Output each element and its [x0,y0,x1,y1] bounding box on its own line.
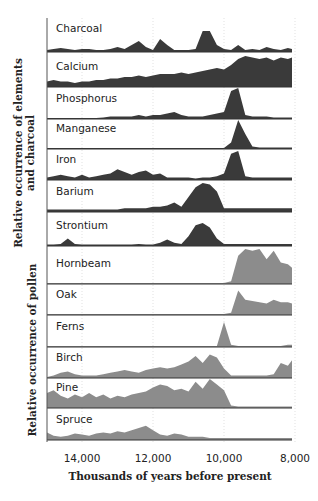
series-label: Charcoal [56,22,102,34]
panel-pine: Pine [47,379,292,408]
panel-spruce: Spruce [47,413,292,440]
y-axis-label-pollen: Relative occurrence of pollen [26,263,38,436]
series-label: Hornbeam [56,257,111,269]
series-label: Pine [56,381,78,393]
series-label: Ferns [56,320,84,332]
y-label-elements-line2: and charcoal [24,115,36,191]
x-tick-label: 8,000 [280,452,310,464]
panel-phosphorus: Phosphorus [47,88,292,119]
series-label: Calcium [56,60,98,72]
x-tick-label: 10,000 [206,452,243,464]
series-area [47,31,292,52]
series-label: Barium [56,185,94,197]
y-label-elements-line1: Relative occurrence of elements [12,58,24,248]
panel-hornbeam: Hornbeam [47,249,292,284]
panel-ferns: Ferns [47,320,292,347]
series-label: Strontium [56,219,108,231]
panel-barium: Barium [47,183,292,212]
series-label: Phosphorus [56,92,117,104]
series-panels: CharcoalCalciumPhosphorusManganeseIronBa… [47,22,292,440]
y-axis-label-elements: Relative occurrence of elements and char… [12,58,36,248]
panel-manganese: Manganese [47,120,292,149]
series-label: Birch [56,351,83,363]
series-area [47,355,292,378]
y-label-pollen: Relative occurrence of pollen [26,263,38,436]
x-tick-label: 14,000 [64,452,101,464]
series-area [47,426,292,440]
panel-birch: Birch [47,351,292,378]
panel-oak: Oak [47,288,292,315]
x-axis-ticks: 14,00012,00010,0008,000 [64,452,310,464]
series-label: Oak [56,288,78,300]
panel-calcium: Calcium [47,56,292,87]
x-axis-label: Thousands of years before present [68,470,271,482]
series-area [47,151,292,180]
pollen-element-chart: CharcoalCalciumPhosphorusManganeseIronBa… [0,0,318,501]
panel-charcoal: Charcoal [47,22,292,52]
series-label: Manganese [56,122,116,134]
series-label: Iron [56,153,76,165]
series-area [47,291,292,315]
x-tick-label: 12,000 [135,452,172,464]
panel-strontium: Strontium [47,219,292,246]
series-area [47,379,292,408]
series-label: Spruce [56,413,93,425]
panel-iron: Iron [47,151,292,180]
